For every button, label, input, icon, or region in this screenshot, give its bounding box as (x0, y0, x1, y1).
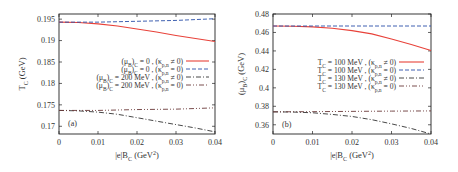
x-tick-label: 0.02 (130, 138, 144, 147)
x-axis-label: |e|BC (GeV2) (115, 150, 159, 162)
y-tick-label: 0.17 (41, 122, 55, 131)
y-tick-label: 0.44 (255, 47, 269, 56)
x-axis-label: |e|BC (GeV2) (330, 150, 374, 162)
x-tick-label: 0.04 (208, 138, 222, 147)
x-tick-label: 0 (57, 138, 61, 147)
y-tick-label: 0.46 (255, 28, 269, 37)
y-tick-label: 0.42 (255, 65, 269, 74)
y-tick-label: 0.175 (37, 101, 55, 110)
y-tick-label: 0.18 (41, 79, 55, 88)
x-tick-label: 0.01 (306, 138, 320, 147)
x-tick-label: 0 (271, 138, 275, 147)
series-line-4 (273, 111, 431, 112)
y-tick-label: 0.19 (41, 36, 55, 45)
x-tick-label: 0.03 (169, 138, 183, 147)
y-tick-label: 0.38 (255, 102, 269, 111)
x-tick-label: 0.04 (424, 138, 438, 147)
series-line-4 (59, 108, 215, 111)
x-tick-label: 0.01 (91, 138, 105, 147)
x-tick-label: 0.03 (385, 138, 399, 147)
y-axis-label: TC (GeV) (17, 57, 29, 90)
series-line-1 (59, 22, 215, 41)
y-axis-label: (μB)C (GeV) (236, 53, 248, 95)
y-tick-label: 0.4 (259, 84, 269, 93)
panel-tag: (b) (282, 120, 292, 129)
chart-panel-b: 00.010.020.030.040.360.380.40.420.440.46… (236, 10, 438, 162)
figure-canvas: 00.010.020.030.040.170.1750.180.1850.190… (0, 0, 458, 172)
y-tick-label: 0.48 (255, 10, 269, 19)
legend: (μB)C = 0 , (κp,n ≠ 0)(μB)C = 0 , (κp,n … (96, 57, 209, 92)
y-tick-label: 0.195 (37, 15, 55, 24)
series-line-2 (59, 19, 215, 22)
chart-panel-a: 00.010.020.030.040.170.1750.180.1850.190… (17, 14, 222, 162)
y-tick-label: 0.36 (255, 121, 269, 130)
y-tick-label: 0.185 (37, 58, 55, 67)
series-line-1 (273, 26, 431, 50)
legend: TC = 100 MeV , (κp,n ≠ 0)TC = 100 MeV , … (318, 58, 424, 93)
x-tick-label: 0.02 (345, 138, 359, 147)
legend-label-4: TC = 130 MeV , (κp,n = 0) (318, 82, 397, 93)
panel-tag: (a) (68, 119, 77, 128)
series-line-3 (59, 110, 215, 131)
series-line-3 (273, 112, 431, 134)
